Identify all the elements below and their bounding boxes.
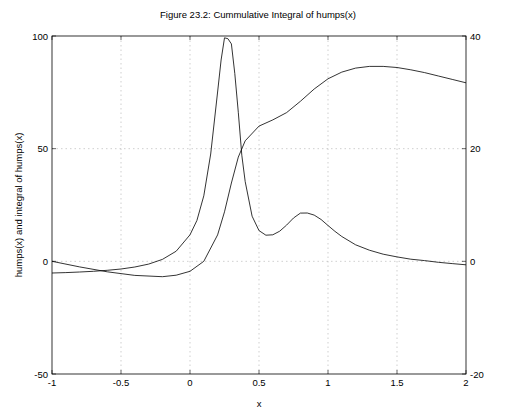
y-tick-label: 0 xyxy=(43,256,48,267)
x-tick-label: 1 xyxy=(325,377,330,388)
y2-tick-label: 0 xyxy=(470,256,475,267)
x-tick-label: 1.5 xyxy=(390,377,403,388)
x-tick-label: -0.5 xyxy=(113,377,129,388)
x-axis-label: x xyxy=(257,398,262,409)
y-axis-ticks: -50050100 xyxy=(32,31,56,380)
x-axis-ticks: -1-0.500.511.52 xyxy=(48,36,469,388)
y2-tick-label: 40 xyxy=(470,31,481,42)
series-lines xyxy=(52,38,466,277)
y2-tick-label: -20 xyxy=(470,369,484,380)
y-tick-label: 100 xyxy=(32,31,48,42)
y-tick-label: -50 xyxy=(34,369,48,380)
chart-title: Figure 23.2: Cummulative Integral of hum… xyxy=(160,9,356,20)
grid-lines xyxy=(52,36,466,374)
x-tick-label: 0.5 xyxy=(252,377,265,388)
x-tick-label: -1 xyxy=(48,377,56,388)
y-tick-label: 50 xyxy=(37,143,48,154)
y2-tick-label: 20 xyxy=(470,143,481,154)
x-tick-label: 0 xyxy=(187,377,192,388)
x-tick-label: 2 xyxy=(463,377,468,388)
chart: Figure 23.2: Cummulative Integral of hum… xyxy=(0,0,508,414)
y-axis-label: humps(x) and integral of humps(x) xyxy=(13,133,24,278)
